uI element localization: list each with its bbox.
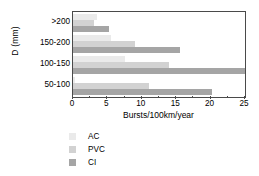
bar-ci bbox=[73, 68, 245, 74]
x-tick-label: 20 bbox=[198, 99, 222, 108]
bar-group bbox=[73, 14, 245, 32]
y-axis-tick-labels: >200150-200100-15050-100 bbox=[22, 11, 70, 96]
bar-ci bbox=[73, 47, 180, 53]
legend-swatch-icon bbox=[69, 133, 76, 140]
chart-legend: ACPVCCI bbox=[69, 130, 159, 169]
legend-label: PVC bbox=[88, 145, 105, 154]
legend-item-ac: AC bbox=[69, 130, 159, 143]
y-tick-label: 150-200 bbox=[22, 37, 70, 46]
x-axis-title: Bursts/100km/year bbox=[72, 110, 245, 120]
legend-item-ci: CI bbox=[69, 156, 159, 169]
legend-item-pvc: PVC bbox=[69, 143, 159, 156]
bar-ci bbox=[73, 89, 212, 95]
bar-chart-figure: D (mm) >200150-200100-15050-100 05101520… bbox=[0, 0, 259, 176]
x-tick-minor bbox=[192, 96, 193, 98]
legend-label: AC bbox=[88, 132, 99, 141]
x-tick-label: 10 bbox=[129, 99, 153, 108]
legend-label: CI bbox=[88, 158, 96, 167]
bar-ci bbox=[73, 26, 109, 32]
y-tick-label: 50-100 bbox=[22, 80, 70, 89]
x-tick-minor bbox=[227, 96, 228, 98]
x-tick-minor bbox=[124, 96, 125, 98]
x-tick-label: 5 bbox=[94, 99, 118, 108]
bar-group bbox=[73, 77, 245, 95]
y-axis-title: D (mm) bbox=[10, 17, 20, 65]
x-tick-minor bbox=[89, 96, 90, 98]
bar-group bbox=[73, 56, 245, 74]
legend-swatch-icon bbox=[69, 146, 76, 153]
y-tick-label: >200 bbox=[22, 16, 70, 25]
x-tick-label: 25 bbox=[232, 99, 256, 108]
x-tick-label: 15 bbox=[163, 99, 187, 108]
y-tick-label: 100-150 bbox=[22, 59, 70, 68]
x-tick-label: 0 bbox=[60, 99, 84, 108]
legend-swatch-icon bbox=[69, 159, 76, 166]
bar-group bbox=[73, 35, 245, 53]
x-tick-minor bbox=[158, 96, 159, 98]
plot-area bbox=[72, 11, 246, 98]
